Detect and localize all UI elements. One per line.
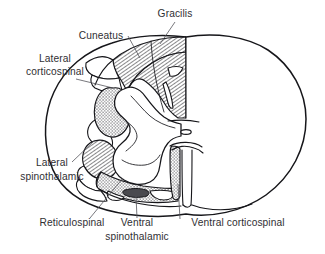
label-ventral-spinothalamic-line2: spinothalamic — [105, 231, 169, 242]
label-cuneatus: Cuneatus — [79, 30, 123, 41]
label-gracilis: Gracilis — [158, 8, 193, 19]
label-lateral-corticospinal-line2: corticospinal — [26, 66, 84, 77]
label-reticulospinal: Reticulospinal — [40, 217, 105, 228]
label-ventral-corticospinal: Ventral corticospinal — [191, 217, 284, 228]
label-lateral-corticospinal-line1: Lateral — [39, 53, 71, 64]
spinal-cord-diagram: Gracilis Cuneatus Lateral corticospinal … — [0, 0, 325, 254]
label-lateral-spinothalamic-line2: spinothalamic — [20, 171, 84, 182]
label-lateral-spinothalamic-line1: Lateral — [36, 157, 68, 168]
label-ventral-spinothalamic-line1: Ventral — [121, 217, 153, 228]
central-canal — [181, 130, 191, 135]
